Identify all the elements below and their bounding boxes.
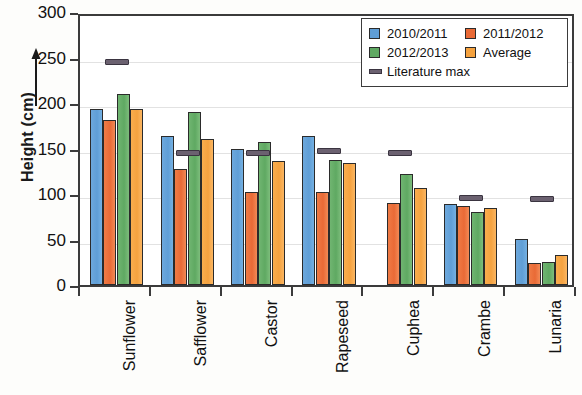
bar: [457, 206, 470, 285]
y-tick: [70, 150, 78, 152]
literature-max-marker: [459, 195, 483, 201]
legend-swatch-icon: [465, 28, 476, 39]
y-tick-label: 50: [0, 231, 66, 251]
literature-max-marker: [317, 148, 341, 154]
legend-label-2: 2012/2013: [387, 45, 448, 60]
bar: [343, 163, 356, 285]
y-tick: [70, 286, 78, 288]
literature-max-marker: [246, 150, 270, 156]
bar: [515, 239, 528, 285]
y-tick-label: 300: [0, 3, 66, 23]
x-tick: [432, 287, 434, 296]
y-tick: [70, 241, 78, 243]
y-tick-label: 100: [0, 185, 66, 205]
x-category-label: Cuphea: [405, 300, 423, 395]
x-category-label: Castor: [263, 300, 281, 395]
bar: [414, 188, 427, 285]
bar: [329, 160, 342, 285]
bar: [161, 136, 174, 285]
x-tick: [78, 287, 80, 296]
bar: [231, 149, 244, 286]
literature-max-marker: [388, 150, 412, 156]
x-tick: [574, 287, 576, 296]
legend-swatch-icon: [465, 47, 476, 58]
bar: [245, 192, 258, 285]
legend-label-1: 2011/2012: [483, 26, 544, 41]
y-tick: [70, 59, 78, 61]
bar: [201, 139, 214, 285]
y-tick: [70, 195, 78, 197]
literature-max-marker: [176, 150, 200, 156]
legend-label-4: Literature max: [387, 64, 470, 79]
x-category-label: Sunflower: [121, 300, 139, 395]
legend-item-2: 2012/2013: [369, 45, 465, 60]
legend-item-4: Literature max: [369, 64, 561, 79]
bar-chart: Height (cm) 050100150200250300 Sunflower…: [0, 0, 582, 395]
bar: [387, 203, 400, 285]
y-tick: [70, 104, 78, 106]
bar: [188, 112, 201, 285]
y-tick-label: 150: [0, 140, 66, 160]
x-tick: [503, 287, 505, 296]
bar: [103, 120, 116, 285]
x-tick: [220, 287, 222, 296]
bar: [90, 109, 103, 285]
legend-item-0: 2010/2011: [369, 26, 465, 41]
bar: [174, 169, 187, 285]
bar: [555, 255, 568, 285]
bar: [302, 136, 315, 285]
bar: [117, 94, 130, 285]
y-tick-label: 250: [0, 49, 66, 69]
bar-group: [222, 16, 293, 285]
x-category-label: Crambe: [476, 300, 494, 395]
legend-item-3: Average: [465, 45, 561, 60]
bar: [316, 192, 329, 285]
bar: [484, 208, 497, 285]
bar: [130, 109, 143, 285]
y-tick-label: 0: [0, 276, 66, 296]
bar-group: [151, 16, 222, 285]
x-tick: [149, 287, 151, 296]
legend: 2010/2011 2011/2012 2012/2013 Average Li…: [361, 18, 568, 87]
bar: [444, 204, 457, 285]
literature-max-marker: [105, 59, 129, 65]
y-tick: [70, 13, 78, 15]
bar: [528, 263, 541, 285]
bar: [258, 142, 271, 285]
x-category-label: Lunaria: [547, 300, 565, 395]
x-tick: [361, 287, 363, 296]
legend-swatch-icon: [369, 47, 380, 58]
bar: [400, 174, 413, 285]
y-tick-label: 200: [0, 94, 66, 114]
legend-label-3: Average: [483, 45, 531, 60]
bar-group: [80, 16, 151, 285]
bar: [542, 262, 555, 285]
literature-max-marker: [530, 196, 554, 202]
legend-item-1: 2011/2012: [465, 26, 561, 41]
legend-label-0: 2010/2011: [387, 26, 448, 41]
bar: [272, 161, 285, 285]
x-category-label: Rapeseed: [334, 300, 352, 395]
legend-swatch-icon: [369, 28, 380, 39]
bar: [471, 212, 484, 285]
x-tick: [291, 287, 293, 296]
bar-group: [293, 16, 364, 285]
x-category-label: Safflower: [192, 300, 210, 395]
legend-literature-max-icon: [369, 69, 382, 74]
